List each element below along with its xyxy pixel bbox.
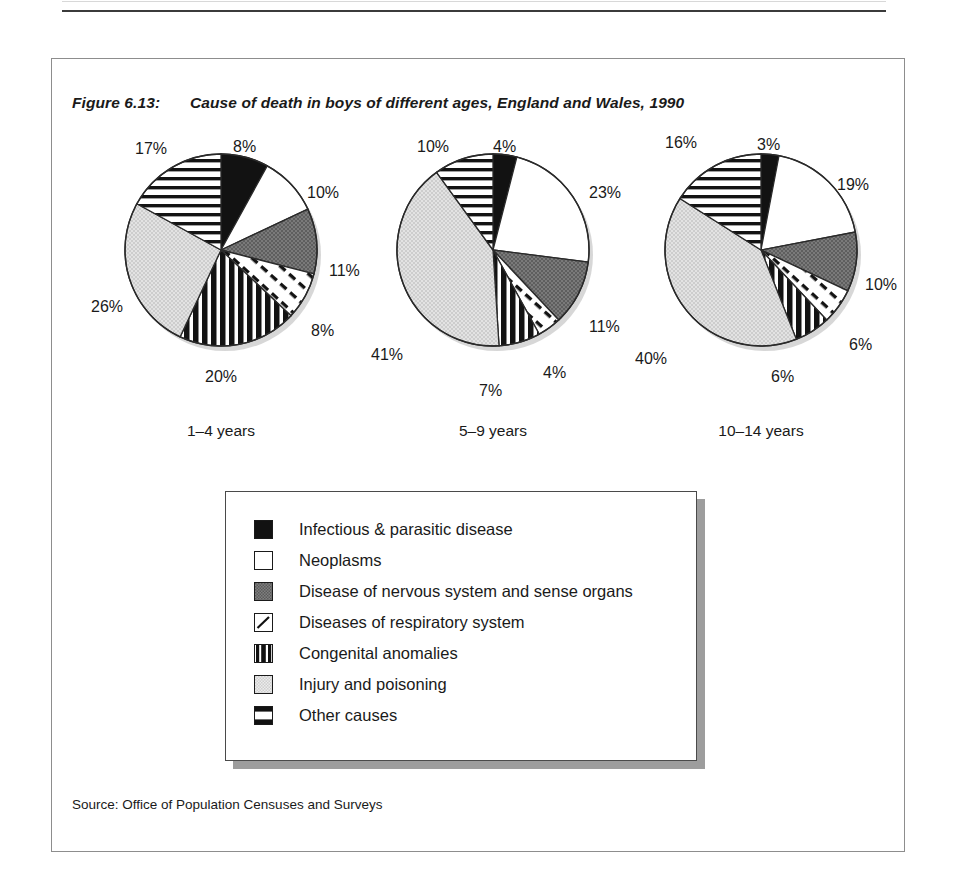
dashed-diagonal-swatch bbox=[254, 613, 273, 632]
age-group-label: 5–9 years bbox=[348, 422, 638, 440]
horizontal-stripe-swatch bbox=[254, 706, 273, 725]
slice-percent-label: 6% bbox=[771, 368, 794, 386]
age-group-label: 1–4 years bbox=[76, 422, 366, 440]
slice-percent-label: 4% bbox=[543, 364, 566, 382]
legend-label: Injury and poisoning bbox=[299, 675, 447, 694]
legend-item[interactable]: Disease of nervous system and sense orga… bbox=[254, 576, 633, 607]
slice-percent-label: 19% bbox=[837, 176, 869, 194]
slice-percent-label: 10% bbox=[865, 276, 897, 294]
legend-list: Infectious & parasitic diseaseNeoplasmsD… bbox=[254, 514, 633, 731]
slice-percent-label: 8% bbox=[311, 322, 334, 340]
pie-panel-2: 4%23%11%4%7%41%10%5–9 years bbox=[348, 150, 638, 470]
slice-percent-label: 10% bbox=[417, 138, 449, 156]
legend-label: Infectious & parasitic disease bbox=[299, 520, 513, 539]
light-grey-swatch bbox=[254, 675, 273, 694]
legend-label: Congenital anomalies bbox=[299, 644, 458, 663]
source-note: Source: Office of Population Censuses an… bbox=[72, 797, 382, 812]
pie-chart-2: 4%23%11%4%7%41%10% bbox=[393, 150, 593, 350]
legend-item[interactable]: Congenital anomalies bbox=[254, 638, 633, 669]
pie-panels: 8%10%11%8%20%26%17%1–4 years4%23%11%4%7%… bbox=[51, 150, 905, 470]
slice-percent-label: 26% bbox=[91, 298, 123, 316]
slice-percent-label: 16% bbox=[665, 134, 697, 152]
slice-percent-label: 3% bbox=[757, 136, 780, 154]
legend-item[interactable]: Diseases of respiratory system bbox=[254, 607, 633, 638]
legend-label: Disease of nervous system and sense orga… bbox=[299, 582, 633, 601]
pie-chart-1: 8%10%11%8%20%26%17% bbox=[121, 150, 321, 350]
legend-item[interactable]: Infectious & parasitic disease bbox=[254, 514, 633, 545]
slice-percent-label: 41% bbox=[371, 346, 403, 364]
page-top-hairline bbox=[62, 1, 886, 2]
figure-title: Figure 6.13:Cause of death in boys of di… bbox=[72, 94, 684, 112]
pie-panel-1: 8%10%11%8%20%26%17%1–4 years bbox=[76, 150, 366, 470]
legend-box: Infectious & parasitic diseaseNeoplasmsD… bbox=[225, 491, 697, 761]
solid-black-swatch bbox=[254, 520, 273, 539]
page-header-rule bbox=[62, 10, 886, 12]
legend-label: Diseases of respiratory system bbox=[299, 613, 525, 632]
age-group-label: 10–14 years bbox=[616, 422, 906, 440]
dark-grey-swatch bbox=[254, 582, 273, 601]
slice-percent-label: 4% bbox=[493, 138, 516, 156]
slice-percent-label: 6% bbox=[849, 336, 872, 354]
legend-label: Neoplasms bbox=[299, 551, 382, 570]
figure-title-text: Cause of death in boys of different ages… bbox=[190, 94, 684, 111]
slice-percent-label: 8% bbox=[233, 138, 256, 156]
legend-label: Other causes bbox=[299, 706, 397, 725]
white-swatch bbox=[254, 551, 273, 570]
legend-item[interactable]: Other causes bbox=[254, 700, 633, 731]
slice-percent-label: 17% bbox=[135, 140, 167, 158]
pie-panel-3: 3%19%10%6%6%40%16%10–14 years bbox=[616, 150, 906, 470]
slice-percent-label: 7% bbox=[479, 382, 502, 400]
legend-item[interactable]: Injury and poisoning bbox=[254, 669, 633, 700]
figure-number: Figure 6.13: bbox=[72, 94, 190, 112]
legend-item[interactable]: Neoplasms bbox=[254, 545, 633, 576]
vertical-stripe-swatch bbox=[254, 644, 273, 663]
slice-percent-label: 40% bbox=[635, 350, 667, 368]
slice-percent-label: 10% bbox=[307, 184, 339, 202]
slice-percent-label: 20% bbox=[205, 368, 237, 386]
pie-chart-3: 3%19%10%6%6%40%16% bbox=[661, 150, 861, 350]
